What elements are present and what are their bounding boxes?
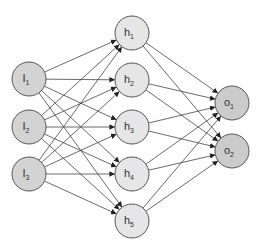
node-h3: h3 xyxy=(115,110,149,144)
edge-I3-h1 xyxy=(39,47,122,161)
edge-h1-o2 xyxy=(143,46,221,138)
edge-h5-o1 xyxy=(143,116,221,208)
edge-I1-h1 xyxy=(45,40,117,72)
edge-h3-o2 xyxy=(149,131,216,147)
node-h1: h1 xyxy=(115,16,149,50)
node-I1: I1 xyxy=(12,62,46,96)
edge-I1-h5 xyxy=(39,93,122,207)
node-h5: h5 xyxy=(115,204,149,238)
node-h2: h2 xyxy=(115,63,149,97)
node-I2: I2 xyxy=(12,110,46,144)
edge-h3-o1 xyxy=(149,107,216,123)
node-h4: h4 xyxy=(115,157,149,191)
neural-network-diagram: I1I2I3h1h2h3h4h5o1o2 xyxy=(0,0,261,251)
edge-h2-o1 xyxy=(149,84,216,99)
node-o1: o1 xyxy=(215,86,249,120)
node-o2: o2 xyxy=(215,134,249,168)
node-I3: I3 xyxy=(12,157,46,191)
